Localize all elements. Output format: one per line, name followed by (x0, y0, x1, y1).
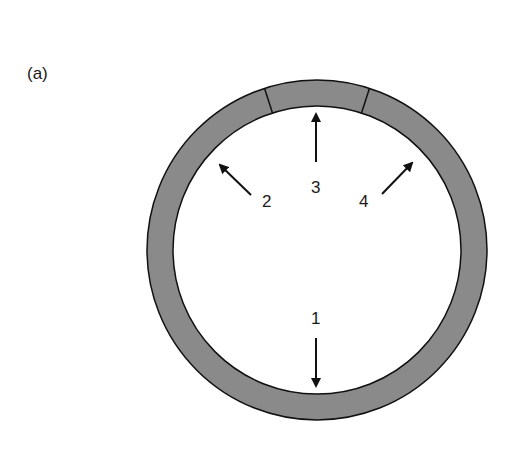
arrow-4 (382, 163, 412, 194)
ring-diagram: (a) 3 2 4 1 (0, 0, 517, 469)
arrow-label-1: 1 (311, 309, 320, 328)
arrow-label-3: 3 (311, 178, 320, 197)
arrow-label-4: 4 (359, 192, 368, 211)
arrow-label-2: 2 (262, 192, 271, 211)
panel-label: (a) (27, 64, 48, 83)
arrow-2 (220, 165, 251, 195)
